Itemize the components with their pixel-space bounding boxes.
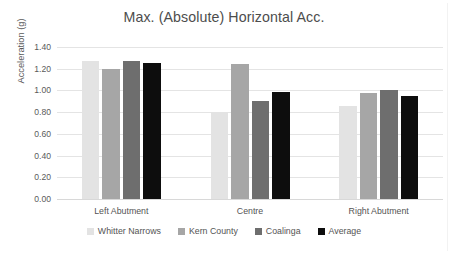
bar: [102, 69, 120, 199]
x-axis-category-label: Centre: [186, 206, 315, 216]
bar: [380, 90, 398, 199]
legend-swatch-icon: [255, 228, 262, 235]
x-axis-category-label: Left Abutment: [57, 206, 186, 216]
bar: [360, 93, 378, 199]
y-axis-tick-label: 0.40: [11, 152, 51, 161]
bar: [401, 96, 419, 199]
legend-label: Average: [329, 227, 362, 236]
chart-title: Max. (Absolute) Horizontal Acc.: [0, 9, 448, 25]
legend-item[interactable]: Whitter Narrows: [87, 227, 161, 236]
y-axis-tick-label: 0.20: [11, 173, 51, 182]
y-axis-tick-label: 0.00: [11, 195, 51, 204]
bar: [252, 101, 270, 199]
legend-item[interactable]: Average: [318, 227, 362, 236]
legend-swatch-icon: [178, 228, 185, 235]
legend-item[interactable]: Kern County: [178, 227, 238, 236]
chart-legend: Whitter NarrowsKern CountyCoalingaAverag…: [0, 227, 448, 236]
bar: [82, 61, 100, 199]
legend-swatch-icon: [318, 228, 325, 235]
bar: [123, 61, 141, 199]
bar: [143, 63, 161, 199]
legend-swatch-icon: [87, 228, 94, 235]
gridline: [57, 199, 443, 200]
bar: [339, 106, 357, 199]
y-axis-tick-label: 1.40: [11, 43, 51, 52]
y-axis-tick-label: 1.00: [11, 86, 51, 95]
legend-label: Whitter Narrows: [98, 227, 161, 236]
y-axis-tick-label: 1.20: [11, 65, 51, 74]
bar: [211, 112, 229, 199]
legend-label: Kern County: [189, 227, 238, 236]
plot-area: 0.000.200.400.600.801.001.201.40: [57, 47, 443, 199]
bar: [272, 92, 290, 199]
bar: [231, 64, 249, 199]
y-axis-tick-label: 0.60: [11, 130, 51, 139]
chart-container: Max. (Absolute) Horizontal Acc. Accelera…: [0, 0, 463, 262]
x-axis-category-label: Right Abutment: [314, 206, 443, 216]
gridline: [57, 47, 443, 48]
y-axis-tick-label: 0.80: [11, 108, 51, 117]
legend-label: Coalinga: [266, 227, 301, 236]
legend-item[interactable]: Coalinga: [255, 227, 301, 236]
